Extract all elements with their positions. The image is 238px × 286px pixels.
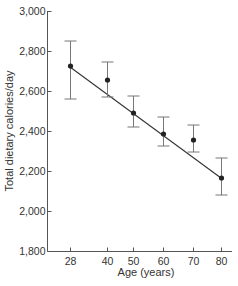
y-tick-label: 2,400: [19, 125, 45, 137]
y-tick-label: 2,800: [19, 45, 45, 57]
y-tick-label: 3,000: [19, 5, 45, 17]
x-tick-label: 28: [65, 255, 77, 267]
data-point: [188, 125, 200, 152]
x-axis-title: Age (years): [118, 266, 175, 278]
data-point: [158, 117, 170, 146]
x-axis: 284050607080: [48, 248, 233, 268]
y-axis-title: Total dietary calories/day: [3, 70, 15, 192]
chart: 1,8002,0002,2002,4002,6002,8003,000 2840…: [0, 0, 238, 286]
y-tick-label: 1,800: [19, 245, 45, 257]
x-tick-label: 80: [216, 255, 228, 267]
y-axis: 1,8002,0002,2002,4002,6002,8003,000: [19, 5, 51, 257]
data-point: [216, 158, 228, 195]
y-tick-label: 2,000: [19, 205, 45, 217]
x-tick-label: 70: [188, 255, 200, 267]
regression-line: [70, 67, 221, 178]
data-points: [65, 41, 228, 195]
x-tick-label: 40: [102, 255, 114, 267]
y-tick-label: 2,200: [19, 165, 45, 177]
y-tick-label: 2,600: [19, 85, 45, 97]
data-point: [128, 96, 140, 127]
